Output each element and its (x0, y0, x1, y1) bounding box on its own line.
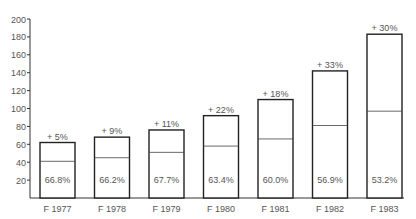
y-tick-label: 120 (11, 86, 26, 96)
y-tick-label: 40 (16, 158, 26, 168)
x-tick-label: F 1978 (98, 204, 126, 214)
chart-canvas: 20406080100120140160180200+ 5%66.8%F 197… (0, 0, 416, 219)
y-tick-label: 160 (11, 50, 26, 60)
growth-label: + 22% (208, 105, 234, 115)
y-tick-label: 60 (16, 140, 26, 150)
x-tick-label: F 1979 (152, 204, 180, 214)
x-tick-label: F 1983 (370, 204, 398, 214)
growth-label: + 5% (47, 132, 68, 142)
x-tick-label: F 1977 (43, 204, 71, 214)
y-tick-label: 100 (11, 104, 26, 114)
bar-chart: 20406080100120140160180200+ 5%66.8%F 197… (0, 0, 416, 219)
growth-label: + 30% (372, 23, 398, 33)
growth-label: + 9% (102, 126, 123, 136)
growth-label: + 33% (317, 60, 343, 70)
y-tick-label: 200 (11, 15, 26, 25)
bar-total (40, 143, 75, 198)
share-label: 67.7% (154, 175, 180, 185)
share-label: 60.0% (263, 175, 289, 185)
x-tick-label: F 1982 (316, 204, 344, 214)
y-tick-label: 20 (16, 176, 26, 186)
share-label: 53.2% (372, 175, 398, 185)
y-tick-label: 180 (11, 32, 26, 42)
share-label: 56.9% (317, 175, 343, 185)
bar-total (149, 130, 184, 198)
y-tick-label: 140 (11, 68, 26, 78)
y-tick-label: 80 (16, 122, 26, 132)
share-label: 66.8% (45, 175, 71, 185)
x-tick-label: F 1980 (207, 204, 235, 214)
x-tick-label: F 1981 (261, 204, 289, 214)
growth-label: + 11% (154, 119, 179, 129)
bar-total (204, 116, 239, 198)
bar-total (367, 34, 402, 198)
share-label: 63.4% (208, 175, 234, 185)
bar-total (95, 137, 130, 198)
share-label: 66.2% (99, 175, 125, 185)
growth-label: + 18% (263, 89, 289, 99)
